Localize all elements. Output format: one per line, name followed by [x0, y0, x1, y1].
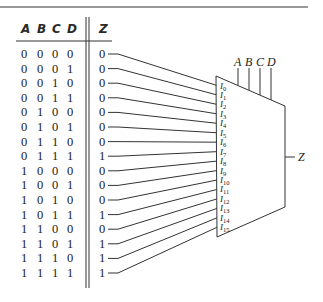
truth-table-rows: 0000000010001000011001000010100110001111…	[21, 47, 105, 280]
cell-input: 1	[67, 266, 73, 280]
wire	[108, 112, 217, 123]
cell-input: 0	[37, 91, 43, 105]
cell-input: 1	[67, 120, 73, 134]
cell-input: 1	[67, 237, 73, 251]
cell-input: 1	[67, 208, 73, 222]
cell-input: 0	[52, 105, 58, 119]
cell-output-z: 0	[99, 120, 105, 134]
header-c: C	[52, 22, 61, 36]
cell-input: 0	[67, 222, 73, 236]
cell-input: 1	[21, 208, 27, 222]
cell-input: 0	[52, 120, 58, 134]
wire	[108, 189, 217, 214]
cell-input: 0	[67, 47, 73, 61]
cell-output-z: 0	[99, 76, 105, 90]
cell-input: 1	[21, 266, 27, 280]
select-label-c: C	[256, 55, 265, 69]
cell-input: 0	[21, 120, 27, 134]
cell-input: 1	[21, 251, 27, 265]
cell-input: 1	[67, 62, 73, 76]
cell-input: 1	[37, 266, 43, 280]
cell-input: 1	[52, 251, 58, 265]
cell-input: 0	[37, 208, 43, 222]
cell-input: 1	[21, 178, 27, 192]
cell-input: 0	[67, 105, 73, 119]
cell-output-z: 1	[99, 149, 105, 163]
cell-output-z: 0	[99, 135, 105, 149]
cell-input: 1	[52, 135, 58, 149]
cell-input: 0	[67, 193, 73, 207]
wire	[108, 152, 217, 157]
wire	[108, 83, 217, 104]
cell-output-z: 1	[99, 251, 105, 265]
header-a: A	[20, 22, 30, 36]
cell-input: 0	[21, 47, 27, 61]
cell-input: 0	[21, 91, 27, 105]
cell-output-z: 0	[99, 47, 105, 61]
cell-output-z: 1	[99, 208, 105, 222]
cell-input: 1	[52, 193, 58, 207]
cell-input: 0	[37, 62, 43, 76]
cell-input: 1	[52, 149, 58, 163]
header-b: B	[37, 22, 46, 36]
cell-output-z: 1	[99, 237, 105, 251]
cell-output-z: 0	[99, 91, 105, 105]
cell-input: 1	[37, 135, 43, 149]
cell-input: 1	[37, 237, 43, 251]
cell-input: 0	[52, 62, 58, 76]
cell-input: 0	[37, 193, 43, 207]
cell-input: 0	[37, 76, 43, 90]
cell-input: 1	[21, 237, 27, 251]
cell-input: 1	[37, 251, 43, 265]
cell-output-z: 1	[99, 266, 105, 280]
wire	[108, 208, 217, 243]
select-label-a: A	[233, 55, 242, 69]
wire	[108, 227, 217, 273]
cell-input: 0	[52, 47, 58, 61]
cell-input: 1	[37, 105, 43, 119]
wire	[108, 69, 217, 95]
cell-input: 1	[52, 208, 58, 222]
header-d: D	[67, 22, 77, 36]
cell-output-z: 0	[99, 193, 105, 207]
cell-input: 0	[67, 76, 73, 90]
cell-input: 1	[52, 91, 58, 105]
truth-table-header: A B C D Z	[20, 22, 108, 36]
cell-output-z: 0	[99, 164, 105, 178]
cell-input: 1	[21, 164, 27, 178]
header-z: Z	[98, 22, 108, 36]
cell-input: 0	[37, 47, 43, 61]
cell-input: 0	[21, 149, 27, 163]
cell-input: 0	[67, 164, 73, 178]
cell-input: 1	[67, 178, 73, 192]
output-label-z: Z	[298, 150, 305, 164]
cell-input: 0	[21, 105, 27, 119]
cell-input: 0	[21, 76, 27, 90]
cell-output-z: 0	[99, 105, 105, 119]
cell-input: 0	[52, 164, 58, 178]
cell-input: 1	[52, 76, 58, 90]
wire	[108, 98, 217, 114]
cell-input: 0	[21, 62, 27, 76]
cell-output-z: 0	[99, 222, 105, 236]
wire	[108, 142, 217, 143]
select-label-b: B	[245, 55, 253, 69]
wire	[108, 127, 217, 133]
cell-input: 0	[21, 135, 27, 149]
cell-input: 1	[21, 193, 27, 207]
cell-input: 0	[37, 178, 43, 192]
cell-input: 0	[37, 164, 43, 178]
cell-input: 0	[67, 251, 73, 265]
cell-input: 1	[67, 91, 73, 105]
cell-input: 0	[52, 237, 58, 251]
cell-output-z: 0	[99, 62, 105, 76]
cell-input: 1	[37, 222, 43, 236]
cell-input: 1	[21, 222, 27, 236]
cell-input: 1	[37, 120, 43, 134]
input-wires	[108, 54, 217, 273]
cell-input: 0	[67, 135, 73, 149]
mux-truth-table-diagram: A B C D Z 000000001000100001100100001010…	[0, 0, 323, 302]
cell-input: 0	[52, 178, 58, 192]
cell-input: 1	[37, 149, 43, 163]
cell-input: 1	[52, 266, 58, 280]
